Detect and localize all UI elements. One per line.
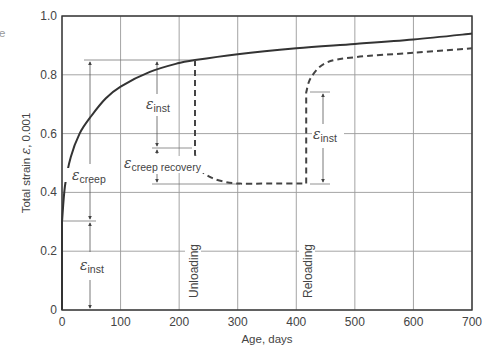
y-tick-label: 0 (50, 303, 57, 317)
edge-text-fragment: e (0, 27, 5, 39)
x-tick-label: 200 (169, 315, 189, 329)
y-tick-label: 0.8 (40, 68, 57, 82)
y-tick-label: 0.2 (40, 244, 57, 258)
y-tick-label: 0.6 (40, 127, 57, 141)
x-tick-label: 500 (345, 315, 365, 329)
y-axis-label: Total strain ε, 0.001 (18, 113, 33, 214)
unloading-label: Unloading (187, 244, 201, 298)
y-tick-label: 0.4 (40, 185, 57, 199)
x-tick-label: 300 (228, 315, 248, 329)
x-tick-label: 0 (59, 315, 66, 329)
x-tick-label: 600 (403, 315, 423, 329)
dimension-arrows (90, 62, 323, 308)
x-tick-label: 100 (111, 315, 131, 329)
reloading-label: Reloading (301, 244, 315, 298)
y-tick-label: 1.0 (40, 9, 57, 23)
creep-strain-chart: e 010020030040050060070000.20.40.60.81.0… (0, 0, 502, 361)
x-tick-label: 400 (286, 315, 306, 329)
x-tick-label: 700 (462, 315, 482, 329)
unload-reload-curve (195, 48, 472, 183)
x-axis-label: Age, days (241, 333, 292, 345)
